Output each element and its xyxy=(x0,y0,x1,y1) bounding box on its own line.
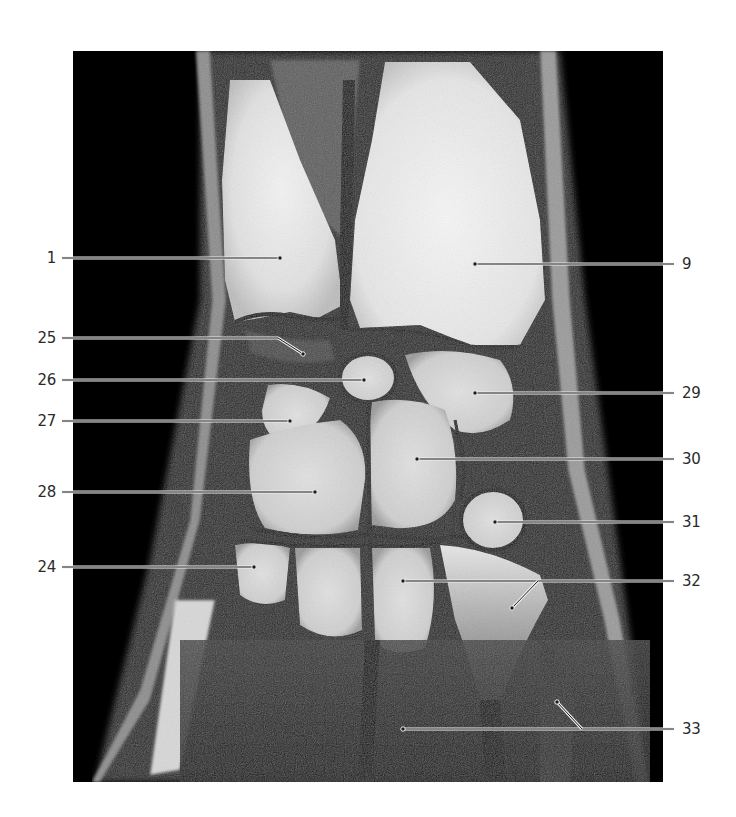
label-30-pointer-dot xyxy=(415,457,419,461)
label-30: 30 xyxy=(682,450,701,468)
label-25-pointer-dot xyxy=(301,352,305,356)
label-29: 29 xyxy=(682,384,701,402)
label-1-pointer-dot xyxy=(278,256,282,260)
label-33: 33 xyxy=(682,720,701,738)
label-32-branch-pointer-dot xyxy=(510,606,514,610)
label-27-pointer-dot xyxy=(288,419,292,423)
label-26: 26 xyxy=(0,371,56,389)
label-33-pointer-dot xyxy=(401,727,405,731)
label-25: 25 xyxy=(0,329,56,347)
label-27: 27 xyxy=(0,412,56,430)
label-1: 1 xyxy=(0,249,56,267)
label-32: 32 xyxy=(682,572,701,590)
label-31-pointer-dot xyxy=(493,520,497,524)
label-9-pointer-dot xyxy=(473,262,477,266)
label-9: 9 xyxy=(682,255,691,273)
label-29-pointer-dot xyxy=(473,391,477,395)
label-32-pointer-dot xyxy=(401,579,405,583)
label-24: 24 xyxy=(0,558,56,576)
wrist-mri-figure xyxy=(0,0,736,817)
label-28-pointer-dot xyxy=(313,490,317,494)
label-24-pointer-dot xyxy=(252,565,256,569)
label-26-pointer-dot xyxy=(362,378,366,382)
label-33-branch-pointer-dot xyxy=(555,700,559,704)
label-31: 31 xyxy=(682,513,701,531)
label-28: 28 xyxy=(0,483,56,501)
